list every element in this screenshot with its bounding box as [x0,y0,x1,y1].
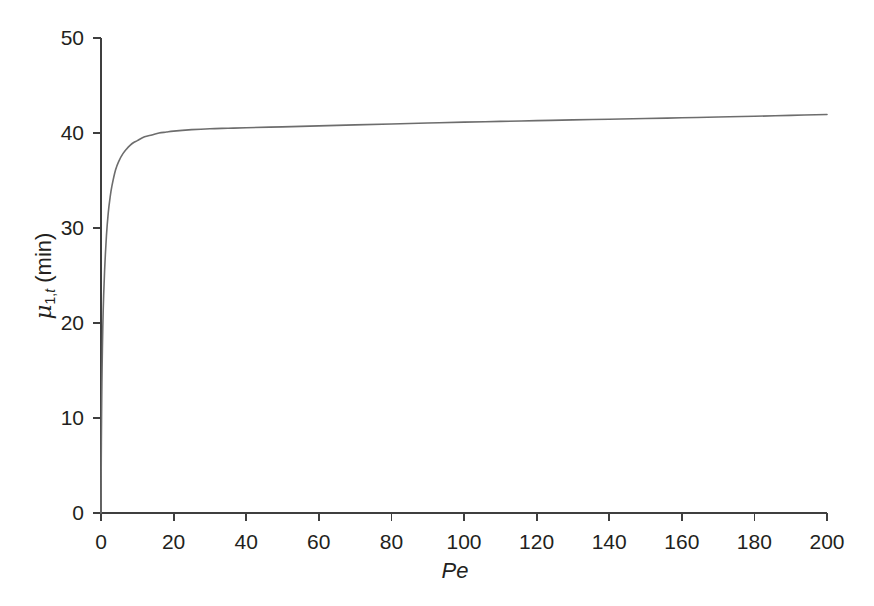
y-tick-label: 30 [61,216,84,240]
x-tick-label: 80 [380,530,403,554]
mu-symbol: μ [30,304,56,319]
y-tick-label: 0 [72,501,84,525]
x-tick-label: 200 [809,530,844,554]
mu-subscript: 1,t [42,289,58,305]
x-tick-label: 0 [95,530,107,554]
data-series-line [101,114,827,513]
x-tick-label: 40 [235,530,258,554]
plot-area [0,0,874,606]
y-axis-unit: (min) [31,233,56,289]
x-tick-label: 180 [737,530,772,554]
x-tick-marks [101,513,827,521]
x-tick-label: 140 [592,530,627,554]
x-tick-label: 60 [307,530,330,554]
x-tick-label: 100 [446,530,481,554]
x-axis-title: Pe [442,558,469,584]
axis-lines [101,38,827,513]
y-tick-label: 20 [61,311,84,335]
y-tick-label: 10 [61,406,84,430]
y-tick-label: 40 [61,121,84,145]
y-axis-title: μ1,t (min) [30,233,58,320]
y-tick-label: 50 [61,26,84,50]
figure-panel: 01020304050 020406080100120140160180200 … [0,0,874,606]
x-tick-label: 120 [519,530,554,554]
x-tick-label: 20 [162,530,185,554]
y-tick-marks [93,38,101,513]
x-tick-label: 160 [664,530,699,554]
